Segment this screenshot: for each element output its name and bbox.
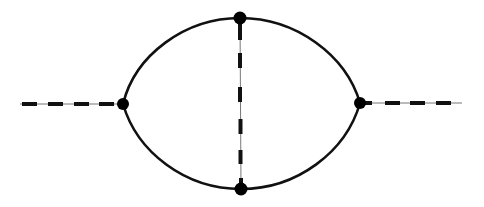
internal-vertical-propagator xyxy=(240,18,241,189)
feynman-diagram xyxy=(0,0,484,207)
vertex-left xyxy=(117,98,129,110)
vertex-bottom xyxy=(235,183,248,196)
lower-arc-propagator xyxy=(123,103,360,189)
vertex-right xyxy=(354,97,366,109)
vertex-top xyxy=(234,12,247,25)
